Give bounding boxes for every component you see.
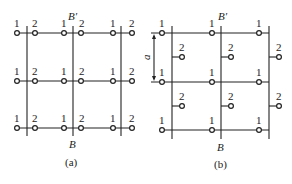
site-label: 2 bbox=[79, 65, 85, 77]
site-label: 1 bbox=[61, 17, 67, 29]
site-node bbox=[33, 79, 38, 84]
site-label: 1 bbox=[209, 114, 215, 126]
site-node bbox=[111, 126, 116, 131]
site-node bbox=[210, 80, 215, 85]
site-node bbox=[180, 104, 185, 109]
site-node bbox=[111, 79, 116, 84]
site-node bbox=[257, 128, 262, 133]
b-prime-label: B′ bbox=[68, 10, 78, 22]
site-node bbox=[229, 55, 234, 60]
caption-b: (b) bbox=[214, 158, 227, 171]
site-node bbox=[257, 31, 262, 36]
site-label: 2 bbox=[276, 90, 282, 102]
dimension-label-a: a bbox=[140, 54, 152, 60]
site-node bbox=[15, 126, 20, 131]
site-label: 1 bbox=[159, 66, 165, 78]
site-node bbox=[210, 128, 215, 133]
site-label: 2 bbox=[32, 17, 38, 29]
site-node bbox=[130, 79, 135, 84]
site-label: 1 bbox=[256, 66, 262, 78]
site-node bbox=[180, 55, 185, 60]
site-label: 2 bbox=[228, 41, 234, 53]
lattice-figure: 1 2 1 2 1 2 B′ 1 2 1 2 1 2 bbox=[0, 0, 292, 184]
b-label: B bbox=[69, 138, 76, 150]
site-label: 1 bbox=[159, 114, 165, 126]
site-label: 1 bbox=[14, 112, 20, 124]
site-label: 1 bbox=[110, 17, 116, 29]
site-label: 2 bbox=[129, 17, 135, 29]
panel-a: 1 2 1 2 1 2 B′ 1 2 1 2 1 2 bbox=[14, 10, 135, 169]
site-label: 2 bbox=[129, 65, 135, 77]
site-label: 2 bbox=[276, 41, 282, 53]
site-label: 1 bbox=[209, 66, 215, 78]
site-label: 2 bbox=[79, 112, 85, 124]
site-node bbox=[257, 80, 262, 85]
site-node bbox=[15, 31, 20, 36]
site-node bbox=[79, 31, 84, 36]
site-label: 1 bbox=[159, 17, 165, 29]
site-label: 1 bbox=[209, 17, 215, 29]
site-node bbox=[62, 126, 67, 131]
site-node bbox=[79, 79, 84, 84]
site-label: 1 bbox=[61, 112, 67, 124]
site-label: 2 bbox=[179, 41, 185, 53]
site-node bbox=[62, 31, 67, 36]
site-node bbox=[277, 55, 282, 60]
panel-b: a 1 1 1 B′ 1 1 1 1 1 1 bbox=[140, 10, 282, 171]
site-label: 2 bbox=[32, 112, 38, 124]
site-node bbox=[160, 128, 165, 133]
site-node bbox=[130, 126, 135, 131]
site-node bbox=[229, 104, 234, 109]
b-label: B bbox=[217, 141, 224, 153]
arrow-up-icon bbox=[152, 34, 156, 39]
site-label: 1 bbox=[110, 65, 116, 77]
site-node bbox=[79, 126, 84, 131]
site-label: 2 bbox=[228, 90, 234, 102]
caption-a: (a) bbox=[65, 156, 78, 169]
site-label: 1 bbox=[61, 65, 67, 77]
site-node bbox=[210, 31, 215, 36]
site-label: 2 bbox=[179, 90, 185, 102]
site-node bbox=[15, 79, 20, 84]
arrow-down-icon bbox=[152, 76, 156, 81]
site-node bbox=[130, 31, 135, 36]
site-node bbox=[160, 31, 165, 36]
site-label: 2 bbox=[129, 112, 135, 124]
site-label: 1 bbox=[256, 114, 262, 126]
site-node bbox=[33, 31, 38, 36]
site-node bbox=[111, 31, 116, 36]
site-node bbox=[33, 126, 38, 131]
site-node bbox=[62, 79, 67, 84]
site-label: 1 bbox=[256, 17, 262, 29]
site-label: 1 bbox=[14, 65, 20, 77]
site-label: 1 bbox=[110, 112, 116, 124]
site-label: 2 bbox=[79, 17, 85, 29]
site-label: 2 bbox=[32, 65, 38, 77]
site-node bbox=[160, 80, 165, 85]
b-prime-label: B′ bbox=[218, 10, 228, 22]
site-node bbox=[277, 104, 282, 109]
site-label: 1 bbox=[14, 17, 20, 29]
